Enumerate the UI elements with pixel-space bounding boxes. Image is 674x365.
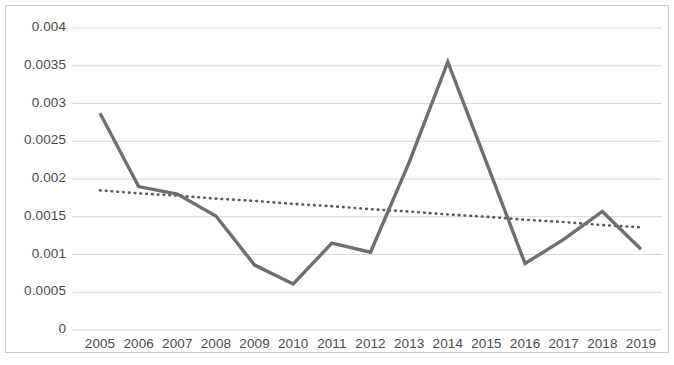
gridlines — [72, 28, 662, 330]
chart-canvas — [0, 0, 674, 365]
y-axis-tick-label: 0.0025 — [12, 132, 66, 147]
x-axis-tick-label: 2017 — [542, 336, 586, 351]
y-axis-tick-label: 0.001 — [12, 246, 66, 261]
x-axis-tick-label: 2018 — [580, 336, 624, 351]
line-chart: 00.00050.0010.00150.0020.00250.0030.0035… — [0, 0, 674, 365]
y-axis-tick-label: 0.003 — [12, 95, 66, 110]
polyline-series-1 — [100, 62, 641, 284]
x-axis-tick-label: 2015 — [464, 336, 508, 351]
y-axis-tick-label: 0.0015 — [12, 208, 66, 223]
x-axis-tick-label: 2005 — [78, 336, 122, 351]
x-axis-tick-label: 2009 — [233, 336, 277, 351]
x-axis-tick-label: 2014 — [426, 336, 470, 351]
x-axis-tick-label: 2010 — [271, 336, 315, 351]
x-axis-tick-label: 2016 — [503, 336, 547, 351]
x-axis-tick-label: 2013 — [387, 336, 431, 351]
x-axis-tick-label: 2011 — [310, 336, 354, 351]
x-axis-tick-label: 2007 — [155, 336, 199, 351]
data-series-line — [100, 62, 641, 284]
x-axis-tick-label: 2008 — [194, 336, 238, 351]
x-axis-tick-label: 2012 — [349, 336, 393, 351]
y-axis-tick-label: 0 — [12, 321, 66, 336]
x-axis-tick-label: 2019 — [619, 336, 663, 351]
y-axis-tick-label: 0.0005 — [12, 283, 66, 298]
y-axis-tick-label: 0.004 — [12, 19, 66, 34]
x-axis-tick-label: 2006 — [117, 336, 161, 351]
y-axis-tick-label: 0.0035 — [12, 57, 66, 72]
y-axis-tick-label: 0.002 — [12, 170, 66, 185]
